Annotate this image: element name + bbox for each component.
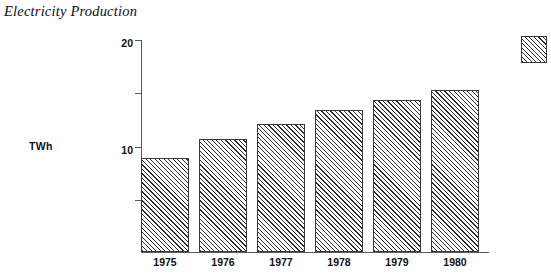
legend-swatch (521, 36, 547, 63)
y-tick-label-10-wrap: 10 (105, 140, 133, 158)
x-tick-label-1977: 1977 (257, 256, 305, 268)
bar-1975 (141, 158, 189, 252)
bar-1978 (315, 110, 363, 252)
chart-container: Electricity Production TWh 20 10 1975 19… (0, 0, 551, 278)
y-tick-label-10: 10 (121, 144, 133, 156)
x-tick-label-1976: 1976 (199, 256, 247, 268)
y-axis-label: TWh (29, 140, 53, 152)
x-tick-label-1979: 1979 (373, 256, 421, 268)
bar-1980 (431, 90, 479, 252)
bar-1979 (373, 100, 421, 252)
y-tick-label-20: 20 (121, 37, 133, 49)
bar-1976 (199, 139, 247, 252)
chart-title: Electricity Production (4, 3, 137, 20)
y-tick-20 (135, 40, 141, 41)
x-tick-label-1978: 1978 (315, 256, 363, 268)
y-tick-10 (135, 147, 141, 148)
bar-1977 (257, 124, 305, 252)
y-tick-label-20-wrap: 20 (105, 33, 133, 51)
x-axis-line (141, 252, 489, 253)
x-tick-label-1975: 1975 (141, 256, 189, 268)
y-tick-15 (135, 93, 141, 94)
x-tick-label-1980: 1980 (431, 256, 479, 268)
